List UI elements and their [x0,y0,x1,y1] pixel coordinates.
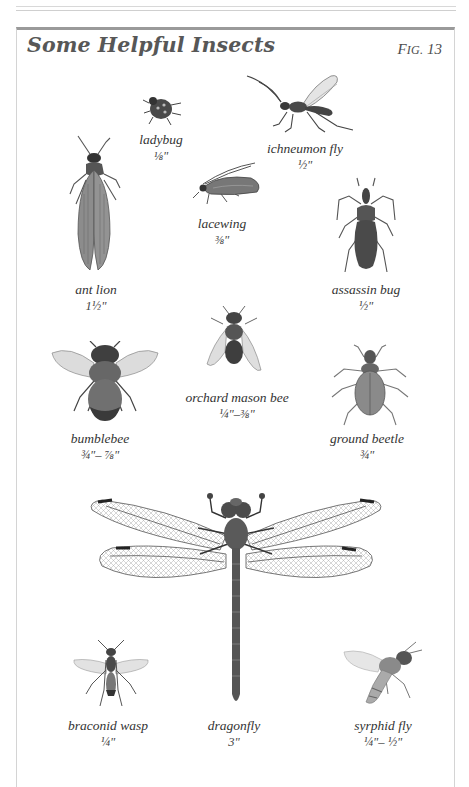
insect-size: 1½" [75,298,117,315]
lacewing-illustration [191,162,263,208]
figure-label: FIG. 13 [398,41,442,58]
insect-name: syrphid fly [354,717,411,734]
insect-name: braconid wasp [68,717,148,734]
insect-name: assassin bug [332,281,401,298]
caption-assassin-bug: assassin bug ½" [332,281,401,315]
page-title: Some Helpful Insects [27,33,275,57]
insect-name: ichneumon fly [267,140,343,157]
top-rule [16,10,456,11]
insect-size: ½" [332,298,401,315]
caption-dragonfly: dragonfly 3" [208,717,261,751]
caption-ant-lion: ant lion 1½" [75,281,117,315]
insect-size: ¼" [68,734,148,751]
braconid-wasp-illustration [70,640,152,708]
insect-name: ladybug [139,131,183,148]
caption-ground-beetle: ground beetle ¾" [330,430,404,464]
insect-name: orchard mason bee [185,389,288,406]
ladybug-illustration [141,91,185,127]
insect-size: ¾"– ⅞" [71,447,129,464]
orchard-mason-bee-illustration [203,304,265,376]
insect-size: 3" [208,734,261,751]
top-rule [16,6,456,7]
insect-name: ant lion [75,281,117,298]
figure-prefix: F [398,41,407,57]
caption-lacewing: lacewing ⅜" [198,215,247,249]
ichneumon-fly-illustration [245,74,363,136]
caption-braconid-wasp: braconid wasp ¼" [68,717,148,751]
insect-size: ¼"– ½" [354,734,411,751]
insect-size: ¾" [330,447,404,464]
insect-size: ¼"–⅜" [185,406,288,423]
ground-beetle-illustration [328,343,412,427]
insect-name: ground beetle [330,430,404,447]
caption-syrphid-fly: syrphid fly ¼"– ½" [354,717,411,751]
caption-ladybug: ladybug ⅛" [139,131,183,165]
insect-size: ½" [267,157,343,174]
insect-name: lacewing [198,215,247,232]
bumblebee-illustration [50,341,160,423]
ant-lion-illustration [66,134,124,274]
figure-number: 13 [427,41,442,57]
insect-name: dragonfly [208,717,261,734]
insect-name: bumblebee [71,430,129,447]
insect-size: ⅛" [139,148,183,165]
insect-size: ⅜" [198,232,247,249]
caption-ichneumon-fly: ichneumon fly ½" [267,140,343,174]
syrphid-fly-illustration [342,638,426,710]
caption-bumblebee: bumblebee ¾"– ⅞" [71,430,129,464]
figure-prefix-small-caps: IG. [407,43,424,57]
caption-orchard-mason-bee: orchard mason bee ¼"–⅜" [185,389,288,423]
assassin-bug-illustration [331,176,401,276]
